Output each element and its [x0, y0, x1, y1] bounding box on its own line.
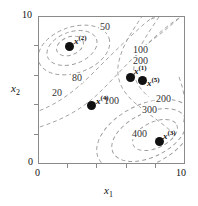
data-point-index-x5: (5)	[152, 76, 160, 84]
contour-level-100-corner	[143, 17, 183, 47]
data-point-index-x2: (2)	[79, 34, 87, 42]
y-tick-8	[34, 45, 39, 46]
data-point-x5	[138, 76, 147, 85]
contour-right-edge	[179, 77, 184, 125]
y-tick-6	[34, 75, 39, 76]
contour-label-50: 50	[99, 22, 111, 32]
data-point-index-x1: (1)	[139, 64, 147, 72]
y-axis-max-label: 10	[22, 9, 32, 20]
data-point-x4	[87, 101, 96, 110]
contour-label-400: 400	[131, 129, 148, 139]
x-tick-8	[155, 163, 156, 168]
x-axis-title-sub: 1	[109, 190, 113, 199]
contour-label-20: 20	[51, 88, 63, 98]
x-axis-title: x1	[104, 184, 113, 199]
x-tick-6	[126, 163, 127, 168]
y-axis-title: x2	[11, 82, 20, 97]
x-tick-2	[67, 163, 68, 168]
data-point-label-x5: x(5)	[147, 76, 160, 88]
y-axis-title-sub: 2	[16, 88, 20, 97]
data-point-label-x2: x(2)	[74, 34, 87, 46]
x-tick-4	[96, 163, 97, 168]
contour-label-300: 300	[141, 105, 158, 115]
data-point-x2	[65, 42, 74, 51]
data-point-label-x3: x(3)	[163, 129, 176, 141]
data-point-label-x1: x(1)	[134, 64, 147, 76]
y-tick-2	[34, 134, 39, 135]
contour-label-100-upper: 100	[132, 45, 149, 55]
contour-label-80: 80	[71, 73, 83, 83]
data-point-index-x4: (4)	[101, 94, 109, 102]
y-tick-4	[34, 104, 39, 105]
contour-label-200-lower: 200	[155, 94, 172, 104]
x-axis-max-label: 10	[176, 167, 186, 178]
x-axis-min-label: 0	[35, 167, 40, 178]
data-point-index-x3: (3)	[168, 129, 176, 137]
contour-plot-figure: 20 50 80 100 200 100 200 300 400 x(1) x(…	[0, 0, 198, 206]
plot-area: 20 50 80 100 200 100 200 300 400 x(1) x(…	[38, 16, 185, 164]
y-axis-min-label: 0	[28, 156, 33, 167]
contour-level-80-outer	[39, 17, 184, 129]
data-point-label-x4: x(4)	[96, 94, 109, 106]
